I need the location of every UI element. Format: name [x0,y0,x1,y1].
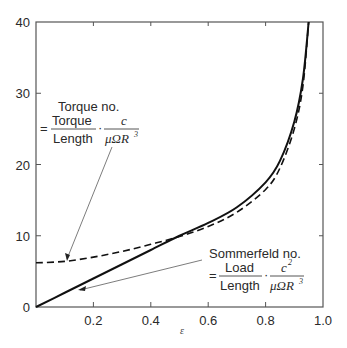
torque-equals: = [40,121,48,136]
torque-frac1-num: Torque [52,113,92,128]
annotation-torque: Torque no. = Torque Length · c μΩR 3 [40,99,139,261]
torque-frac2-num: c [121,113,127,128]
sommerfeld-frac1-num: Load [225,260,254,275]
y-tick-label: 10 [16,229,30,244]
sommerfeld-frac2-den-exp: 3 [298,277,303,286]
x-axis-label: ε [180,325,184,336]
sommerfeld-curve [36,22,309,307]
x-tick-label: 0.8 [257,313,275,328]
sommerfeld-equals: = [209,268,217,283]
torque-frac2-den-exp: 3 [133,130,138,139]
x-tick-label: 0.6 [199,313,217,328]
y-tick-label: 0 [23,300,30,315]
x-tick-label: 1.0 [314,313,332,328]
sommerfeld-dot: · [264,267,268,282]
torque-pointer-line [67,147,112,259]
sommerfeld-frac2-num: c [281,260,287,275]
torque-dot: · [98,120,102,135]
y-tick-label: 20 [16,158,30,173]
torque-frac1-den: Length [53,131,93,146]
plot-border [36,22,323,307]
sommerfeld-frac1-den: Length [220,278,260,293]
data-series [36,22,309,307]
torque-title: Torque no. [58,99,119,114]
sommerfeld-frac2-num-exp: 2 [288,258,292,267]
y-tick-label: 30 [16,86,30,101]
chart: 0.20.40.60.81.0010203040 Torque no. = To… [0,0,347,348]
x-tick-label: 0.4 [142,313,160,328]
sommerfeld-title: Sommerfeld no. [209,246,301,261]
y-tick-label: 40 [16,15,30,30]
torque-frac2-den: μΩR [104,131,129,146]
x-tick-label: 0.2 [84,313,102,328]
plot-frame [36,22,323,307]
sommerfeld-frac2-den: μΩR [269,278,294,293]
sommerfeld-arrow-icon [78,286,86,291]
